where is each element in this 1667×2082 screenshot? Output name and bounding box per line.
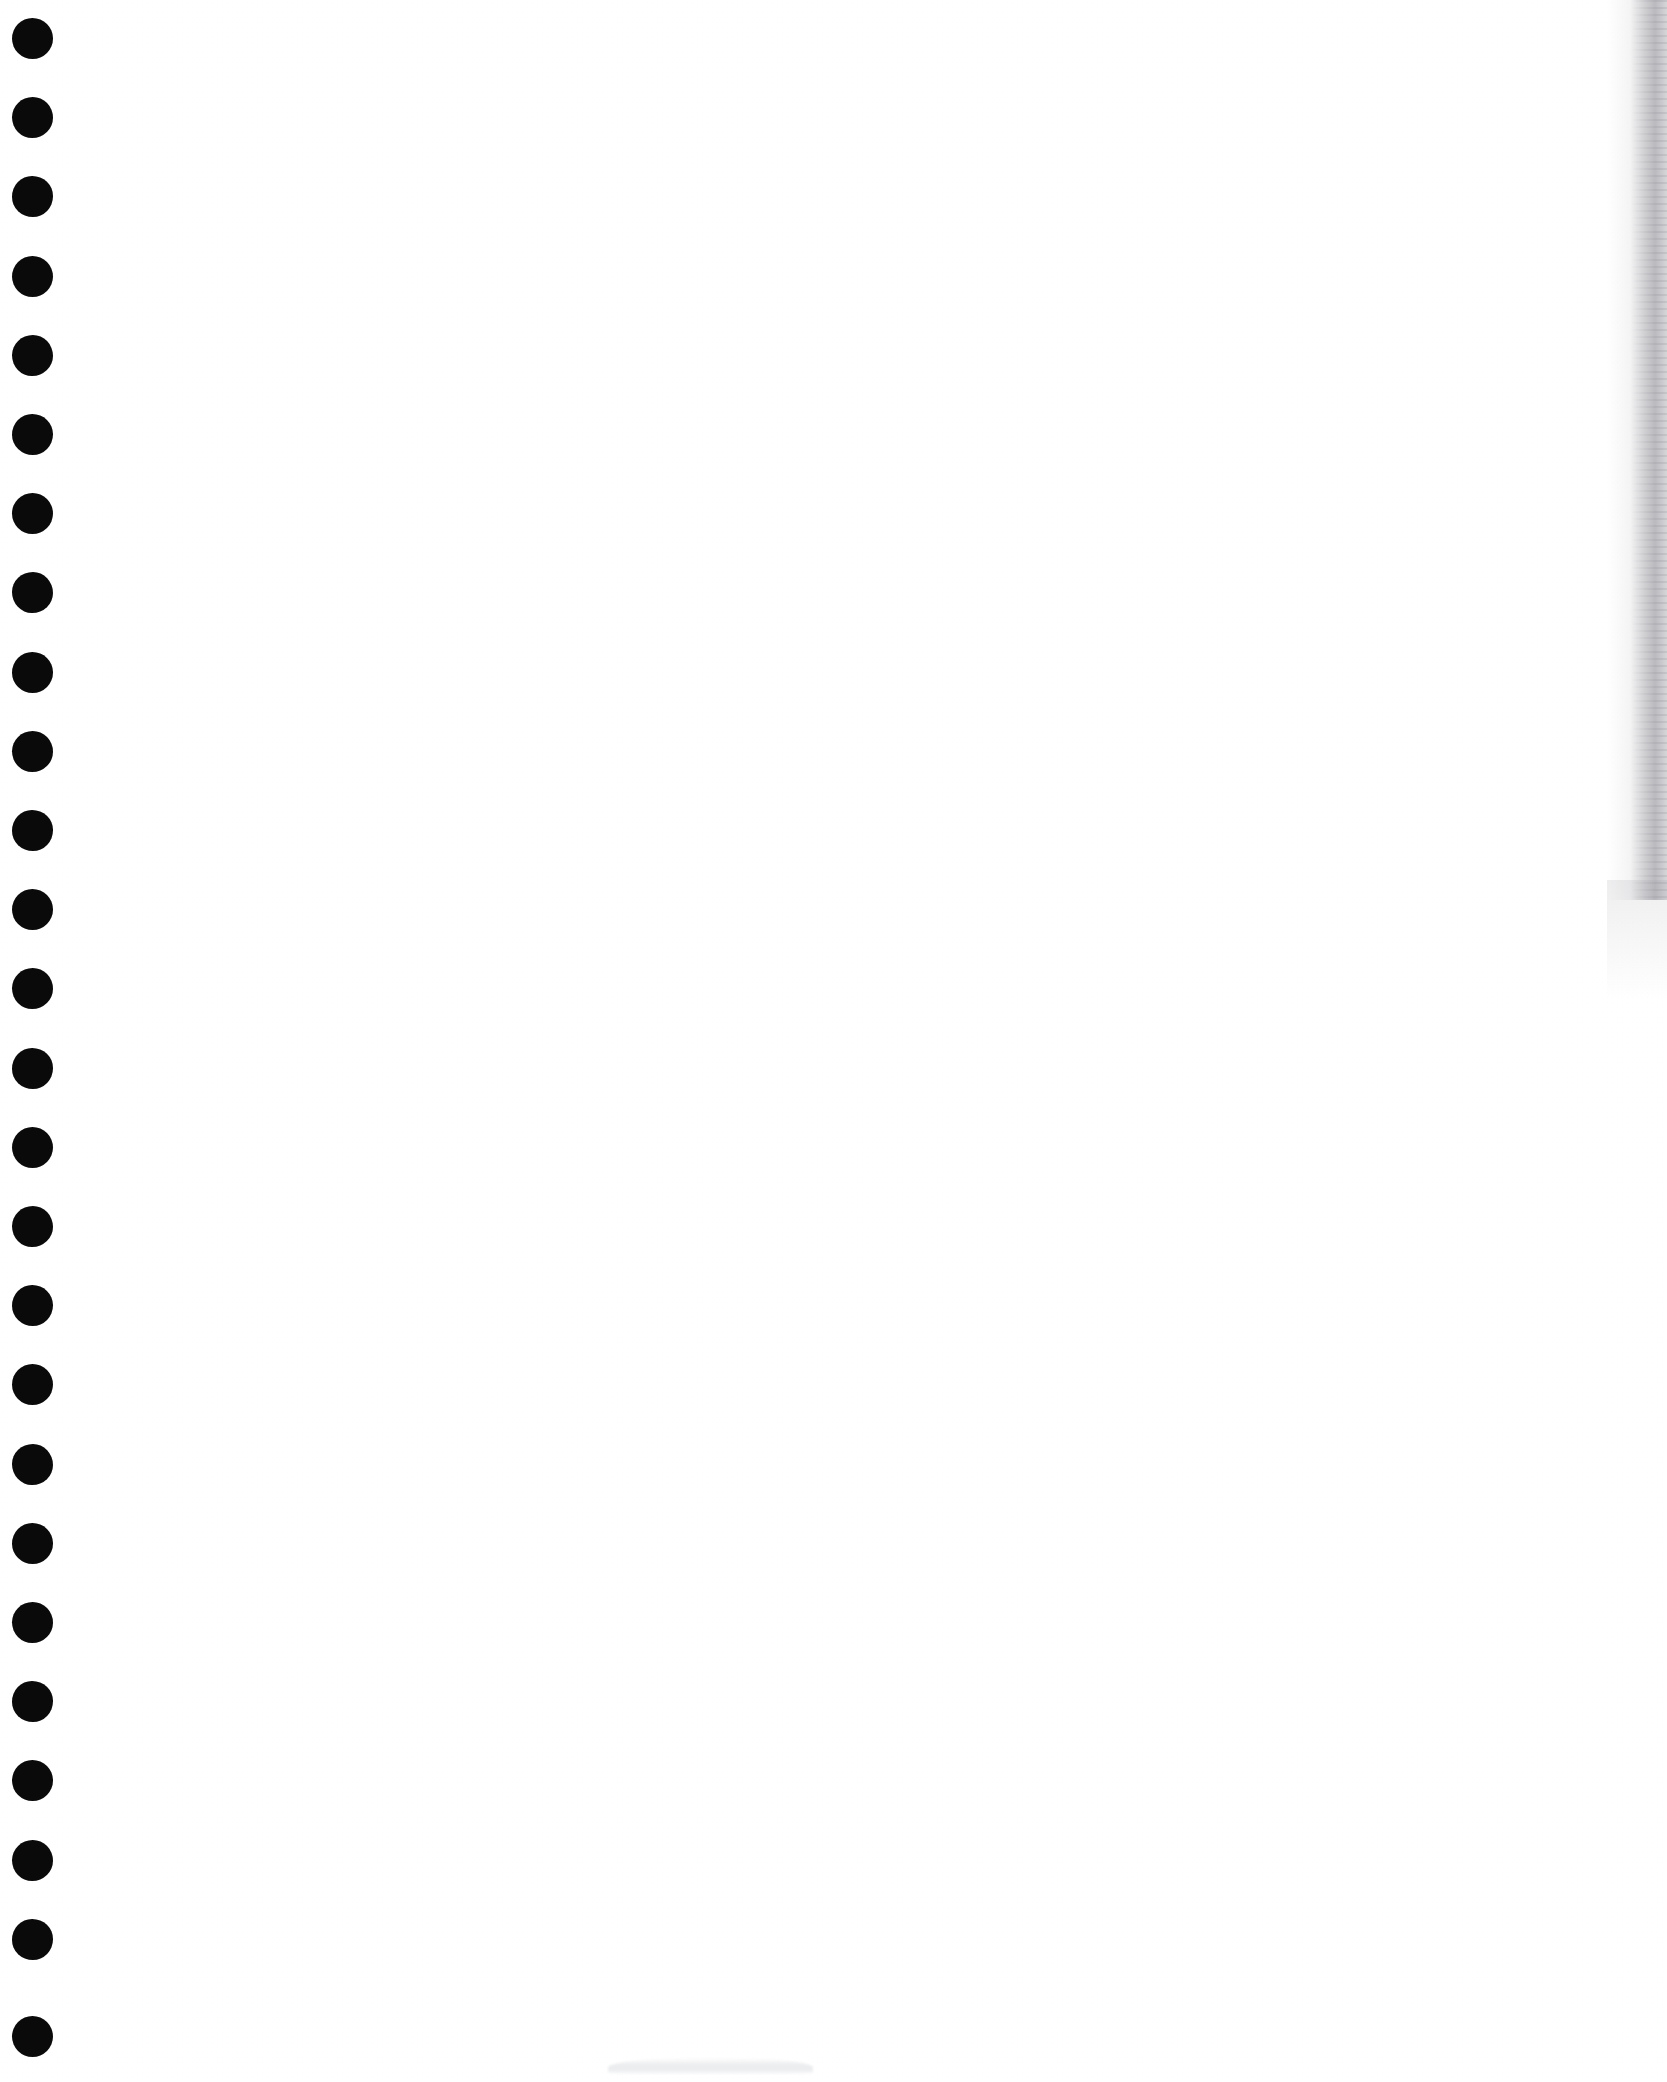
binder-hole bbox=[12, 810, 53, 851]
paper-surface bbox=[0, 0, 1667, 2082]
binder-hole bbox=[12, 889, 53, 930]
binder-hole bbox=[12, 256, 53, 297]
binder-hole bbox=[12, 1206, 53, 1247]
binder-hole bbox=[12, 1285, 53, 1326]
binder-hole bbox=[12, 1364, 53, 1405]
binder-hole bbox=[12, 1602, 53, 1643]
binder-hole bbox=[12, 1760, 53, 1801]
binder-hole bbox=[12, 18, 53, 59]
binder-hole bbox=[12, 97, 53, 138]
binder-hole bbox=[12, 1048, 53, 1089]
binder-hole bbox=[12, 2016, 53, 2057]
binder-hole bbox=[12, 1523, 53, 1564]
binder-hole bbox=[12, 1681, 53, 1722]
binder-hole bbox=[12, 1840, 53, 1881]
binder-hole bbox=[12, 335, 53, 376]
binder-hole bbox=[12, 1127, 53, 1168]
binder-hole bbox=[12, 176, 53, 217]
binder-hole bbox=[12, 493, 53, 534]
scanned-page bbox=[0, 0, 1667, 2082]
binder-hole bbox=[12, 652, 53, 693]
binder-hole bbox=[12, 572, 53, 613]
binder-hole bbox=[12, 968, 53, 1009]
binder-hole-column bbox=[0, 0, 70, 2082]
binder-hole bbox=[12, 414, 53, 455]
binder-hole bbox=[12, 731, 53, 772]
binder-hole bbox=[12, 1919, 53, 1960]
binder-hole bbox=[12, 1444, 53, 1485]
